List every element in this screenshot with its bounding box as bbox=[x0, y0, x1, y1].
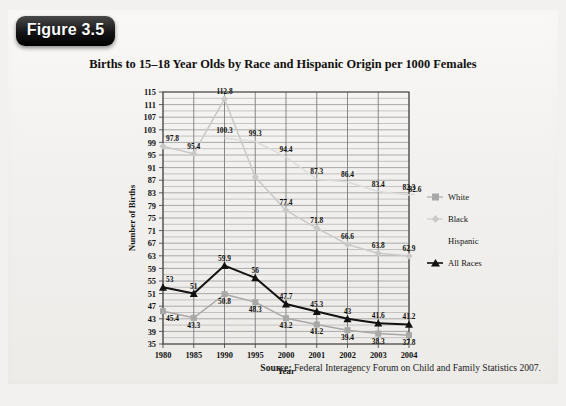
svg-text:48.3: 48.3 bbox=[249, 305, 262, 314]
svg-text:41.2: 41.2 bbox=[310, 327, 323, 336]
svg-text:1995: 1995 bbox=[247, 351, 264, 360]
svg-text:41.2: 41.2 bbox=[403, 312, 416, 321]
svg-text:39: 39 bbox=[148, 328, 156, 337]
svg-text:45.4: 45.4 bbox=[166, 314, 179, 323]
legend-label-black: Black bbox=[446, 214, 468, 224]
svg-text:2002: 2002 bbox=[339, 351, 356, 360]
svg-text:37.8: 37.8 bbox=[403, 338, 416, 347]
source-note: Source: Federal Interagency Forum on Chi… bbox=[260, 362, 541, 373]
svg-text:47: 47 bbox=[148, 302, 156, 311]
legend-label-white: White bbox=[446, 192, 469, 202]
svg-text:50.8: 50.8 bbox=[218, 297, 231, 306]
svg-text:38.3: 38.3 bbox=[372, 337, 385, 346]
legend-item-all-races: All Races bbox=[424, 252, 482, 274]
svg-text:51: 51 bbox=[190, 282, 198, 291]
source-prefix: Source: bbox=[260, 362, 291, 373]
svg-text:2003: 2003 bbox=[370, 351, 387, 360]
svg-text:45.3: 45.3 bbox=[310, 300, 323, 309]
svg-text:111: 111 bbox=[144, 101, 156, 110]
svg-text:82.6: 82.6 bbox=[409, 185, 422, 194]
legend-item-black: Black bbox=[424, 208, 482, 230]
svg-text:1985: 1985 bbox=[185, 351, 202, 360]
svg-text:91: 91 bbox=[148, 164, 156, 173]
svg-text:63.8: 63.8 bbox=[372, 241, 385, 250]
svg-text:Number of Births: Number of Births bbox=[127, 184, 137, 251]
svg-text:95.4: 95.4 bbox=[187, 142, 200, 151]
svg-text:112.8: 112.8 bbox=[216, 87, 233, 96]
svg-text:39.4: 39.4 bbox=[341, 333, 354, 342]
legend-label-all-races: All Races bbox=[446, 258, 482, 268]
svg-text:43: 43 bbox=[148, 315, 156, 324]
svg-text:67: 67 bbox=[148, 239, 156, 248]
svg-text:62.9: 62.9 bbox=[403, 244, 416, 253]
svg-text:47.7: 47.7 bbox=[280, 292, 293, 301]
svg-text:103: 103 bbox=[143, 126, 156, 135]
legend-item-white: White bbox=[424, 186, 482, 208]
svg-text:95: 95 bbox=[148, 151, 156, 160]
figure-number-label: Figure 3.5 bbox=[16, 21, 115, 39]
svg-text:43: 43 bbox=[344, 307, 352, 316]
svg-text:77.4: 77.4 bbox=[280, 198, 293, 207]
chart-legend: White Black Hispanic All Races bbox=[424, 186, 482, 274]
svg-text:83.4: 83.4 bbox=[372, 180, 385, 189]
svg-text:2000: 2000 bbox=[278, 351, 295, 360]
svg-text:56: 56 bbox=[252, 266, 260, 275]
svg-text:35: 35 bbox=[148, 340, 156, 349]
svg-text:66.6: 66.6 bbox=[341, 232, 354, 241]
svg-text:87: 87 bbox=[148, 176, 156, 185]
svg-text:63: 63 bbox=[148, 252, 156, 261]
svg-text:2004: 2004 bbox=[401, 351, 419, 360]
svg-text:59: 59 bbox=[148, 265, 156, 274]
svg-text:99.3: 99.3 bbox=[249, 129, 262, 138]
svg-text:53: 53 bbox=[166, 275, 174, 284]
svg-text:43.2: 43.2 bbox=[280, 321, 293, 330]
svg-text:51: 51 bbox=[148, 290, 156, 299]
source-text: Federal Interagency Forum on Child and F… bbox=[294, 362, 541, 373]
svg-text:41.6: 41.6 bbox=[372, 311, 385, 320]
svg-text:75: 75 bbox=[148, 214, 156, 223]
chart-title: Births to 15–18 Year Olds by Race and Hi… bbox=[0, 57, 566, 72]
svg-text:86.4: 86.4 bbox=[341, 170, 354, 179]
svg-text:99: 99 bbox=[148, 139, 156, 148]
legend-marker-square-icon bbox=[424, 192, 446, 202]
svg-text:55: 55 bbox=[148, 277, 156, 286]
legend-label-hispanic: Hispanic bbox=[446, 236, 479, 246]
svg-text:94.4: 94.4 bbox=[280, 145, 293, 154]
svg-text:87.3: 87.3 bbox=[310, 167, 323, 176]
svg-text:79: 79 bbox=[148, 202, 156, 211]
svg-text:97.8: 97.8 bbox=[166, 134, 179, 143]
figure-page: Figure 3.5 Births to 15–18 Year Olds by … bbox=[0, 0, 566, 406]
figure-number-badge: Figure 3.5 bbox=[16, 16, 115, 46]
svg-text:2001: 2001 bbox=[308, 351, 325, 360]
svg-text:59.9: 59.9 bbox=[218, 254, 231, 263]
svg-text:115: 115 bbox=[144, 88, 156, 97]
svg-text:1980: 1980 bbox=[155, 351, 172, 360]
legend-marker-triangle-icon bbox=[424, 258, 446, 268]
legend-marker-diamond-icon bbox=[424, 214, 446, 224]
svg-text:71.8: 71.8 bbox=[310, 216, 323, 225]
svg-text:100.3: 100.3 bbox=[216, 126, 233, 135]
svg-text:83: 83 bbox=[148, 189, 156, 198]
svg-text:1990: 1990 bbox=[216, 351, 233, 360]
svg-text:71: 71 bbox=[148, 227, 156, 236]
svg-text:107: 107 bbox=[143, 113, 156, 122]
svg-text:43.3: 43.3 bbox=[187, 321, 200, 330]
legend-item-hispanic: Hispanic bbox=[424, 230, 482, 252]
